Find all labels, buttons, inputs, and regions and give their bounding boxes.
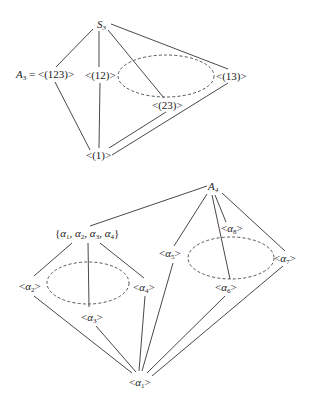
edge-a4-al5 [174,194,207,246]
edge-c13-trivial [112,83,228,155]
edge-a3-trivial [55,82,90,150]
edge-al2-al1 [34,296,132,373]
node-c23: <(23)> [152,99,183,112]
conjugacy-ellipse-order3 [188,237,274,279]
edge-c12-trivial [99,83,100,148]
node-alpha5: <α5> [159,247,181,261]
node-alpha7: <α7> [274,252,296,266]
node-alpha3: <α3> [81,311,103,325]
node-c13: <(13)> [216,70,247,83]
node-klein-four: {α1, α2, α3, α4} [55,227,119,241]
node-alpha4: <α4> [133,281,155,295]
edge-s3-c23 [108,30,164,98]
node-alpha1: <α1> [129,376,151,390]
node-alpha6: <α6> [215,281,237,295]
edge-al4-al1 [139,296,145,371]
conjugacy-ellipse-s3 [118,55,214,97]
node-a4: A4 [207,180,219,194]
node-alpha8: <α8> [221,222,243,236]
edge-s3-a3 [56,29,93,67]
node-trivial-s3: <(1)> [86,149,111,162]
edge-klein-al3 [88,243,89,307]
edge-c23-trivial [109,112,166,148]
a4-lattice: A4 {α1, α2, α3, α4} <α2> <α3> <α4> <α5> … [19,180,296,390]
lattice-svg: S3 A3 = <(123)> <(12)> <(13)> <(23)> <(1… [0,0,309,402]
edge-a4-klein [90,186,207,226]
s3-lattice: S3 A3 = <(123)> <(12)> <(13)> <(23)> <(1… [15,18,247,162]
subgroup-lattice-figure: S3 A3 = <(123)> <(12)> <(13)> <(23)> <(1… [0,0,309,402]
edge-s3-c13 [111,24,228,69]
node-a3: A3 = <(123)> [15,68,74,82]
edge-klein-al4 [100,243,144,278]
node-c12: <(12)> [85,69,116,82]
edge-al6-al1 [147,296,225,373]
node-s3: S3 [97,18,107,32]
edge-al5-al1 [142,263,173,371]
node-alpha2: <α2> [19,280,41,294]
edge-klein-al2 [34,243,72,276]
